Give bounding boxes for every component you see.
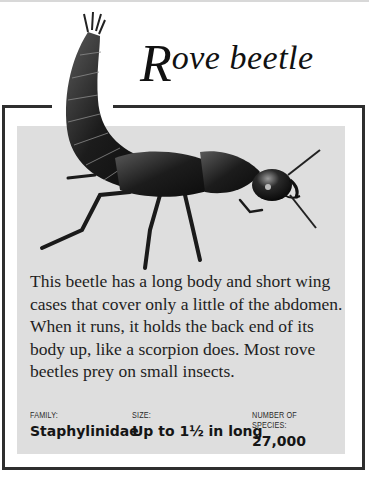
description-text: This beetle has a long body and short wi…: [30, 270, 350, 383]
fact-value: Up to 1½ in long: [132, 423, 263, 439]
fact-label: NUMBER OF SPECIES:: [252, 410, 327, 430]
facts-row: FAMILY: Staphylinidae SIZE: Up to 1½ in …: [30, 410, 340, 450]
rove-beetle-illustration: [0, 0, 369, 300]
fact-species: NUMBER OF SPECIES: 27,000: [252, 410, 340, 449]
fact-size: SIZE: Up to 1½ in long: [132, 410, 263, 439]
fact-label: SIZE:: [132, 410, 243, 420]
fact-value: Staphylinidae: [30, 423, 139, 439]
fact-value: 27,000: [252, 433, 340, 449]
fact-family: FAMILY: Staphylinidae: [30, 410, 139, 439]
fact-label: FAMILY:: [30, 410, 122, 420]
